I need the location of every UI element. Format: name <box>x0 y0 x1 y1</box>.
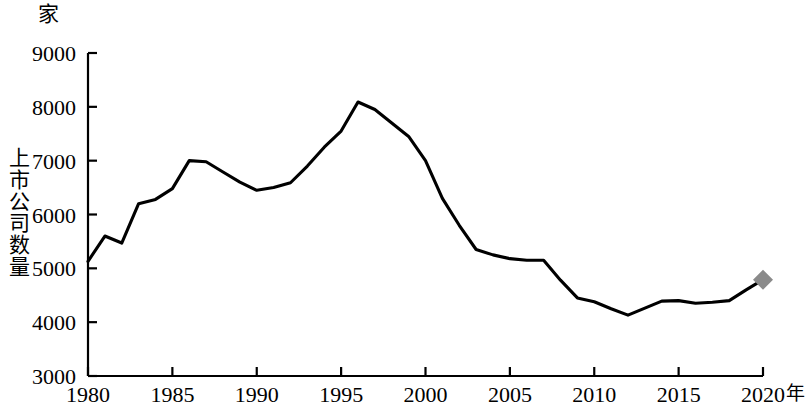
x-axis-tick-label: 1995 <box>319 382 363 407</box>
y-axis-tick-label: 7000 <box>32 149 76 174</box>
x-axis-tick-label: 2020 <box>741 382 785 407</box>
x-axis-tick-group: 198019851990199520002005201020152020 <box>66 367 785 407</box>
x-axis-tick-label: 1980 <box>66 382 110 407</box>
data-series-line <box>88 102 763 315</box>
x-axis-tick-label: 2005 <box>488 382 532 407</box>
y-axis-tick-label: 5000 <box>32 256 76 281</box>
x-axis-tick-label: 2015 <box>657 382 701 407</box>
line-chart: 9000800070006000500040003000 19801985199… <box>0 0 812 409</box>
y-axis-tick-label: 6000 <box>32 203 76 228</box>
y-axis-tick-label: 8000 <box>32 95 76 120</box>
y-axis-tick-label: 4000 <box>32 310 76 335</box>
x-axis-tick-label: 2010 <box>572 382 616 407</box>
x-axis-tick-label: 2000 <box>404 382 448 407</box>
x-axis-tick-label: 1985 <box>150 382 194 407</box>
chart-page: 家 上 市 公 司 数 量 年 900080007000600050004000… <box>0 0 812 409</box>
y-axis-tick-label: 9000 <box>32 41 76 66</box>
end-point-diamond-marker <box>753 270 773 290</box>
x-axis-tick-label: 1990 <box>235 382 279 407</box>
